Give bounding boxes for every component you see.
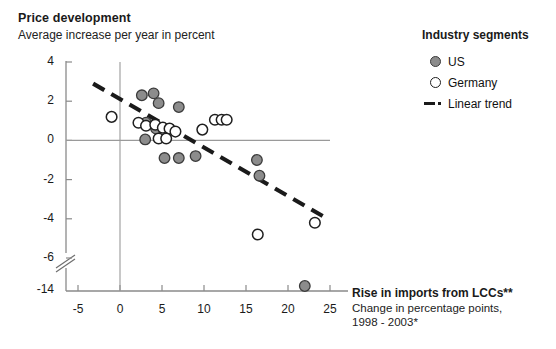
data-point-us[interactable] <box>174 153 185 164</box>
x-axis-subtitle-line-1: Change in percentage points, <box>352 301 552 315</box>
x-axis-caption: Rise in imports from LCCs** Change in pe… <box>352 286 552 329</box>
x-axis-tick-label: 0 <box>103 302 137 316</box>
y-axis-tick-label: -14 <box>20 282 54 296</box>
x-axis-title: Rise in imports from LCCs** <box>352 286 552 300</box>
data-point-us[interactable] <box>252 155 263 166</box>
x-axis-subtitle-line-2: 1998 - 2003* <box>352 315 552 329</box>
data-point-us[interactable] <box>153 98 164 109</box>
chart-canvas: Price development Average increase per y… <box>0 0 556 349</box>
x-axis-tick-label: 15 <box>229 302 263 316</box>
data-point-germany[interactable] <box>252 229 263 240</box>
data-point-germany[interactable] <box>221 115 232 126</box>
data-point-us[interactable] <box>140 134 151 145</box>
y-axis-tick-label: -2 <box>20 172 54 186</box>
data-point-germany[interactable] <box>197 124 208 135</box>
x-axis-tick-label: 25 <box>313 302 347 316</box>
data-point-us[interactable] <box>159 153 170 164</box>
x-axis-tick-label: 5 <box>145 302 179 316</box>
y-axis-tick-label: -6 <box>20 250 54 264</box>
y-axis-tick-label: 0 <box>20 132 54 146</box>
x-axis-subtitle: Change in percentage points, 1998 - 2003… <box>352 301 552 329</box>
data-point-us[interactable] <box>190 151 201 162</box>
data-point-us[interactable] <box>300 281 311 292</box>
y-axis-tick-label: -4 <box>20 211 54 225</box>
x-axis-tick-label: 10 <box>187 302 221 316</box>
y-axis-tick-label: 4 <box>20 54 54 68</box>
data-point-germany[interactable] <box>161 133 172 144</box>
data-point-germany[interactable] <box>310 217 321 228</box>
data-point-us[interactable] <box>148 88 159 99</box>
data-point-germany[interactable] <box>106 112 117 123</box>
linear-trend-line <box>93 84 324 217</box>
data-point-us[interactable] <box>254 170 265 181</box>
x-axis-tick-label: -5 <box>61 302 95 316</box>
data-point-us[interactable] <box>174 102 185 113</box>
data-point-germany[interactable] <box>170 126 181 137</box>
x-axis-tick-label: 20 <box>271 302 305 316</box>
y-axis-tick-label: 2 <box>20 93 54 107</box>
data-point-us[interactable] <box>137 90 148 101</box>
